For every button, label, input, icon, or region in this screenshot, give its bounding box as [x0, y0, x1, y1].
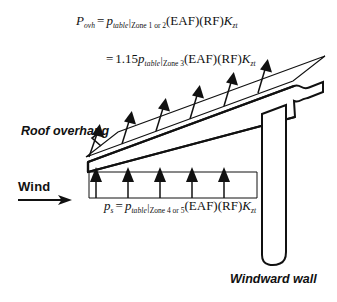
eq1-rhs-subscript-zone: Zone 1 or 2 — [131, 21, 166, 30]
eq3-rhs-subscript-zone: Zone 4 or 5 — [150, 206, 185, 215]
eq1-lhs-symbol: P — [76, 13, 84, 28]
uplift-arrow-3 — [156, 98, 170, 131]
eq1-rhs-subscript-table: table — [113, 21, 129, 30]
soffit-pressure-envelope — [89, 172, 257, 198]
label-wind: Wind — [18, 179, 50, 194]
eq1-lhs-subscript: ovh — [84, 21, 95, 30]
eq3-rhs-subscript-table: table — [131, 206, 147, 215]
eq3-k-subscript: zt — [251, 206, 256, 215]
eq1-equals: = — [95, 13, 106, 28]
windward-wall-outline — [262, 105, 286, 265]
eq2-rhs-subscript-zone: Zone 3 — [163, 59, 184, 68]
eq1-k-subscript: zt — [232, 21, 237, 30]
eq2-equals: = — [104, 51, 115, 66]
windward-wall — [262, 105, 286, 265]
roof-slab-outline — [88, 82, 323, 172]
label-windward-wall: Windward wall — [230, 272, 317, 286]
equation-overhang-zone3: =1.15ptable|Zone 3(EAF)(RF)Kzt — [104, 50, 256, 68]
figure-canvas: Povh=ptable|Zone 1 or 2(EAF)(RF)Kzt =1.1… — [0, 0, 337, 302]
wind-direction-arrow[interactable] — [18, 195, 72, 205]
label-roof-overhang: Roof overhang — [21, 124, 109, 138]
eq2-k-subscript: zt — [250, 59, 255, 68]
eq2-coefficient: 1.15 — [115, 51, 138, 66]
eq3-equals: = — [114, 198, 125, 213]
eq1-factors: (EAF)(RF) — [166, 13, 224, 28]
eq3-k-symbol: K — [242, 198, 251, 213]
equation-overhang-zone12: Povh=ptable|Zone 1 or 2(EAF)(RF)Kzt — [76, 12, 238, 30]
equation-soffit-zone45: ps=ptable|Zone 4 or 5(EAF)(RF)Kzt — [104, 197, 256, 215]
eq3-factors: (EAF)(RF) — [184, 198, 242, 213]
eq2-factors: (EAF)(RF) — [184, 51, 242, 66]
soffit-pressure-group — [89, 167, 257, 198]
roof-slab — [88, 82, 323, 172]
eq2-rhs-subscript-table: table — [145, 59, 161, 68]
wind-pressure-diagram — [0, 0, 337, 302]
